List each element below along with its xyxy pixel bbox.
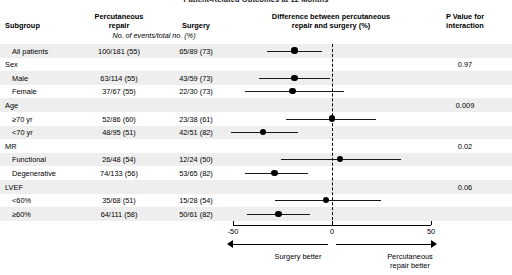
row-percutaneous-repair-8: 26/48 (54) — [80, 155, 158, 164]
row-pvalue-1: 0.97 — [436, 60, 494, 69]
arrow-shaft-left — [233, 244, 328, 245]
point-estimate-marker-0 — [291, 47, 297, 53]
row-percutaneous-repair-3: 37/67 (55) — [80, 87, 158, 96]
point-estimate-marker-11 — [323, 197, 329, 203]
row-band — [0, 153, 512, 167]
row-label-12: ≥60% — [12, 210, 31, 219]
axis-tick-0 — [233, 221, 234, 225]
row-percutaneous-repair-9: 74/133 (56) — [80, 169, 158, 178]
row-surgery-2: 43/59 (73) — [163, 74, 229, 83]
forest-plot-figure: Patient-Related Outcomes at 12 Months Su… — [0, 0, 512, 275]
row-surgery-6: 42/51 (82) — [163, 128, 229, 137]
row-pvalue-4: 0.009 — [436, 101, 494, 110]
arrow-shaft-right — [336, 244, 431, 245]
row-percutaneous-repair-5: 52/86 (60) — [80, 115, 158, 124]
axis-right-label-line2: repair better — [350, 261, 470, 270]
row-label-3: Female — [12, 87, 37, 96]
row-label-9: Degenerative — [12, 169, 56, 178]
row-band — [0, 71, 512, 85]
row-label-8: Functional — [12, 155, 46, 164]
axis-tick-label-0: -50 — [218, 227, 248, 236]
arrow-head-right — [431, 240, 437, 248]
axis-baseline — [233, 225, 431, 226]
row-label-5: ≥70 yr — [12, 115, 33, 124]
axis-direction-arrows — [0, 240, 512, 250]
row-label-0: All patients — [12, 47, 48, 56]
row-percutaneous-repair-6: 48/95 (51) — [80, 128, 158, 137]
axis-tick-2 — [431, 221, 432, 225]
arrow-head-left — [227, 240, 233, 248]
row-pvalue-7: 0.02 — [436, 142, 494, 151]
row-percutaneous-repair-11: 35/68 (51) — [80, 196, 158, 205]
row-surgery-8: 12/24 (50) — [163, 155, 229, 164]
point-estimate-marker-2 — [291, 75, 297, 81]
row-label-1: Sex — [5, 60, 18, 69]
row-label-7: MR — [5, 142, 17, 151]
row-percutaneous-repair-0: 100/181 (55) — [80, 47, 158, 56]
point-estimate-marker-12 — [275, 211, 281, 217]
header-pvalue-line2: interaction — [436, 22, 494, 31]
row-surgery-11: 15/28 (54) — [163, 196, 229, 205]
row-band — [0, 44, 512, 58]
axis-tick-label-2: 50 — [416, 227, 446, 236]
row-surgery-0: 65/89 (73) — [163, 47, 229, 56]
header-subgroup: Subgroup — [5, 22, 77, 31]
row-label-11: <60% — [12, 196, 31, 205]
row-pvalue-10: 0.06 — [436, 183, 494, 192]
point-estimate-marker-3 — [289, 88, 295, 94]
axis-tick-label-1: 0 — [317, 227, 347, 236]
row-surgery-3: 22/30 (73) — [163, 87, 229, 96]
axis-tick-1 — [332, 221, 333, 225]
header-percutaneous-repair-line2: repair — [80, 22, 158, 31]
row-surgery-9: 53/65 (82) — [163, 169, 229, 178]
header-events-note: No. of events/total no. (%) — [72, 32, 236, 41]
row-label-6: <70 yr — [12, 128, 33, 137]
header-difference-line2: repair and surgery (%) — [236, 22, 426, 31]
row-label-4: Age — [5, 101, 18, 110]
row-surgery-5: 23/38 (61) — [163, 115, 229, 124]
row-label-10: LVEF — [5, 183, 23, 192]
row-percutaneous-repair-2: 63/114 (55) — [80, 74, 158, 83]
row-percutaneous-repair-12: 64/111 (58) — [80, 210, 158, 219]
zero-reference-line — [332, 44, 333, 225]
point-estimate-marker-9 — [271, 170, 277, 176]
axis-right-label-line1: Percutaneous — [350, 252, 470, 261]
row-label-2: Male — [12, 74, 28, 83]
header-surgery: Surgery — [163, 22, 229, 31]
row-surgery-12: 50/61 (82) — [163, 210, 229, 219]
axis-left-label: Surgery better — [238, 252, 358, 261]
figure-title: Patient-Related Outcomes at 12 Months — [0, 0, 512, 3]
